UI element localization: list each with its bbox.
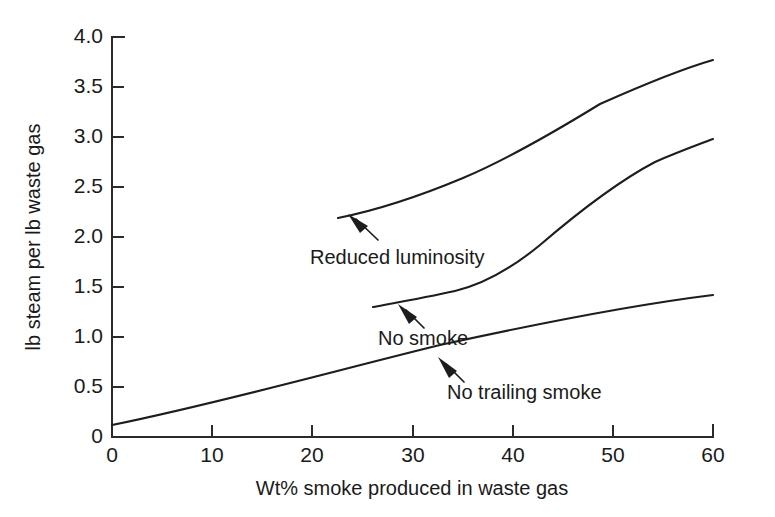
y-tick-label-4: 2.0 — [74, 224, 103, 247]
annotation-no-smoke: No smoke — [378, 304, 468, 349]
axis-lines — [112, 37, 713, 437]
annotation-reduced-luminosity: Reduced luminosity — [310, 214, 485, 268]
chart-figure: 0 0.5 1.0 1.5 2.0 2.5 3.0 3.5 4.0 0 10 2… — [0, 0, 775, 517]
x-tick-label-2: 20 — [300, 443, 323, 466]
curve-reduced-luminosity — [338, 60, 713, 218]
y-axis-tick-labels: 0 0.5 1.0 1.5 2.0 2.5 3.0 3.5 4.0 — [74, 24, 103, 447]
arrow-head-no-smoke — [398, 304, 417, 324]
x-axis-tick-labels: 0 10 20 30 40 50 60 — [106, 443, 725, 466]
y-tick-label-3: 1.5 — [74, 274, 103, 297]
annotation-label-reduced-luminosity: Reduced luminosity — [310, 246, 485, 268]
annotation-label-no-trailing-smoke: No trailing smoke — [447, 381, 602, 403]
y-tick-label-7: 3.5 — [74, 74, 103, 97]
y-tick-label-0: 0 — [91, 424, 103, 447]
curve-no-smoke — [373, 139, 713, 307]
annotation-label-no-smoke: No smoke — [378, 327, 468, 349]
y-axis-ticks — [112, 37, 124, 437]
x-tick-label-6: 60 — [701, 443, 724, 466]
y-tick-label-5: 2.5 — [74, 174, 103, 197]
x-axis-ticks — [112, 425, 713, 437]
x-tick-label-4: 40 — [501, 443, 524, 466]
chart-canvas: 0 0.5 1.0 1.5 2.0 2.5 3.0 3.5 4.0 0 10 2… — [0, 0, 775, 517]
annotation-no-trailing-smoke: No trailing smoke — [438, 357, 602, 403]
arrow-head-reduced-luminosity — [348, 214, 368, 233]
y-axis-title: lb steam per lb waste gas — [22, 124, 44, 351]
y-tick-label-1: 0.5 — [74, 374, 103, 397]
y-tick-label-2: 1.0 — [74, 324, 103, 347]
x-tick-label-1: 10 — [200, 443, 223, 466]
x-axis-title: Wt% smoke produced in waste gas — [256, 477, 568, 499]
x-tick-label-5: 50 — [601, 443, 624, 466]
y-tick-label-8: 4.0 — [74, 24, 103, 47]
x-tick-label-0: 0 — [106, 443, 118, 466]
arrow-head-no-trailing-smoke — [438, 357, 457, 378]
y-tick-label-6: 3.0 — [74, 124, 103, 147]
x-tick-label-3: 30 — [401, 443, 424, 466]
